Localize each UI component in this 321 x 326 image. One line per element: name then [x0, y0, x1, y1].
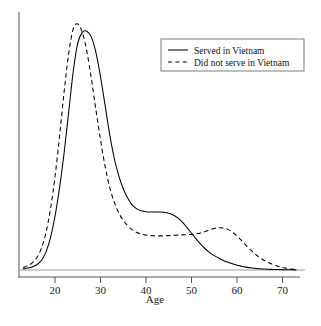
- x-tick-label-60: 60: [232, 284, 244, 296]
- x-tick-label-50: 50: [186, 284, 198, 296]
- x-tick-label-30: 30: [95, 284, 107, 296]
- legend-label-did-not-serve-in-vietnam: Did not serve in Vietnam: [194, 58, 290, 68]
- x-tick-label-70: 70: [277, 284, 289, 296]
- legend: Served in Vietnam Did not serve in Vietn…: [161, 39, 304, 71]
- density-chart: 203040506070 Age Served in Vietnam Did n…: [0, 0, 321, 326]
- x-tick-marks: [55, 277, 283, 283]
- chart-canvas: 203040506070 Age Served in Vietnam Did n…: [0, 0, 321, 326]
- legend-label-served-in-vietnam: Served in Vietnam: [194, 46, 265, 56]
- x-axis-title: Age: [146, 293, 164, 305]
- x-tick-label-20: 20: [50, 284, 62, 296]
- x-tick-labels: 203040506070: [50, 284, 289, 296]
